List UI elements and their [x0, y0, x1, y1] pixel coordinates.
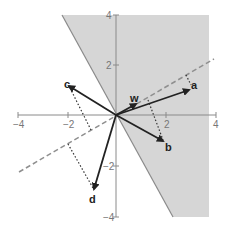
- vector-label-a: a: [191, 79, 198, 91]
- vector-diagram: −4 −2 2 4 4 2 −2 −4 a b c d w: [0, 0, 231, 232]
- vector-label-c: c: [64, 78, 70, 90]
- y-tick-label: 4: [106, 10, 112, 21]
- x-tick-label: 2: [164, 119, 170, 130]
- y-tick-label: −4: [103, 212, 115, 223]
- y-tick-label: 2: [106, 60, 112, 71]
- y-tick-label: −2: [103, 161, 115, 172]
- vector-label-b: b: [165, 141, 172, 153]
- x-tick-label: −2: [63, 119, 75, 130]
- shaded-half-plane: [62, 15, 209, 217]
- vector-label-w: w: [129, 92, 139, 104]
- x-tick-label: −4: [13, 119, 25, 130]
- x-tick-label: 4: [213, 119, 219, 130]
- vector-label-d: d: [89, 193, 96, 205]
